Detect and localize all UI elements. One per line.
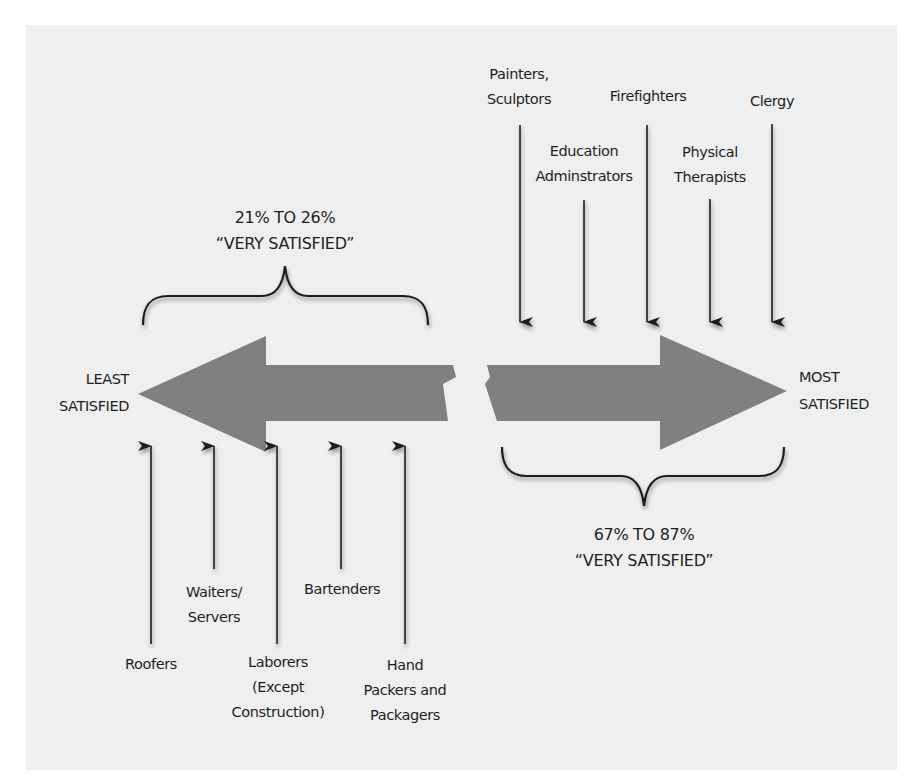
job-label-line: Firefighters	[610, 84, 687, 109]
least-range-label: 21% TO 26% “VERY SATISFIED”	[216, 205, 355, 257]
least-range-percent: 21% TO 26%	[216, 205, 355, 231]
job-label-line: (Except	[232, 675, 325, 700]
least-satisfied-label-line1: LEAST	[59, 366, 129, 393]
least-satisfied-arrow	[138, 336, 456, 452]
job-label-line: Painters,	[487, 62, 551, 87]
job-label-line: Servers	[186, 605, 242, 630]
job-label-line: Waiters/	[186, 580, 242, 605]
least-range-brace	[143, 266, 428, 325]
job-label-line: Packagers	[364, 703, 447, 728]
most-satisfied-arrow	[485, 335, 787, 450]
most-satisfied-label: MOST SATISFIED	[799, 364, 869, 418]
job-label-bartenders: Bartenders	[304, 577, 380, 602]
job-label-clergy: Clergy	[750, 89, 794, 114]
most-range-label: 67% TO 87% “VERY SATISFIED”	[575, 522, 714, 574]
job-label-line: Laborers	[232, 650, 325, 675]
job-label-line: Clergy	[750, 89, 794, 114]
job-label-waiters-servers: Waiters/ Servers	[186, 580, 242, 630]
job-label-firefighters: Firefighters	[610, 84, 687, 109]
most-range-percent: 67% TO 87%	[575, 522, 714, 548]
most-satisfied-label-line2: SATISFIED	[799, 391, 869, 418]
job-label-line: Packers and	[364, 678, 447, 703]
job-label-line: Bartenders	[304, 577, 380, 602]
job-label-line: Adminstrators	[535, 164, 632, 189]
job-label-line: Education	[535, 139, 632, 164]
job-label-line: Therapists	[674, 165, 746, 190]
job-label-laborers: Laborers (Except Construction)	[232, 650, 325, 725]
job-label-line: Sculptors	[487, 87, 551, 112]
most-range-caption: “VERY SATISFIED”	[575, 548, 714, 574]
job-label-hand-packers: Hand Packers and Packagers	[364, 653, 447, 728]
most-satisfied-label-line1: MOST	[799, 364, 869, 391]
least-range-caption: “VERY SATISFIED”	[216, 231, 355, 257]
job-label-education-administrators: Education Adminstrators	[535, 139, 632, 189]
least-satisfied-label-line2: SATISFIED	[59, 393, 129, 420]
least-satisfied-label: LEAST SATISFIED	[59, 366, 129, 420]
job-label-line: Physical	[674, 140, 746, 165]
job-label-line: Roofers	[125, 652, 177, 677]
job-label-line: Hand	[364, 653, 447, 678]
job-label-line: Construction)	[232, 700, 325, 725]
job-label-physical-therapists: Physical Therapists	[674, 140, 746, 190]
job-label-roofers: Roofers	[125, 652, 177, 677]
most-range-brace	[502, 447, 784, 506]
job-label-painters-sculptors: Painters, Sculptors	[487, 62, 551, 112]
